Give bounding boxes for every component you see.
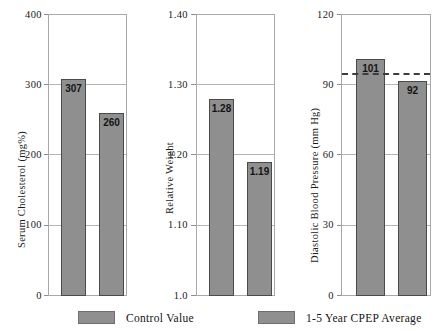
gridline-1-30 xyxy=(197,84,274,85)
y-tick-label-0: 0 xyxy=(296,290,334,301)
y-axis-title-diastolic-blood-pressure: Diastolic Blood Pressure (mm Hg) xyxy=(309,108,320,263)
bar-label-cpep-average: 260 xyxy=(99,117,124,128)
legend-item-control-value: Control Value xyxy=(78,311,194,324)
bar-cpep-average xyxy=(247,162,272,296)
plot-area-relative-weight: 1.28 1.19 xyxy=(196,14,275,296)
reference-line-95 xyxy=(342,73,430,75)
y-tick-label-1-0: 1.0 xyxy=(148,290,188,301)
legend-label-cpep-average: 1-5 Year CPEP Average xyxy=(306,312,422,324)
legend-label-control-value: Control Value xyxy=(126,312,194,324)
y-tick-label-60: 60 xyxy=(296,149,334,160)
bar-control-value xyxy=(209,99,234,296)
bar-label-cpep-average: 1.19 xyxy=(247,166,272,177)
legend-swatch-control-value xyxy=(78,311,115,324)
y-tick-label-30: 30 xyxy=(296,219,334,230)
bar-label-control-value: 1.28 xyxy=(209,103,234,114)
bar-cpep-average xyxy=(99,113,124,296)
y-tick-label-90: 90 xyxy=(296,79,334,90)
bar-control-value xyxy=(356,59,385,296)
plot-area-diastolic-blood-pressure: 101 92 xyxy=(341,14,431,296)
bar-control-value xyxy=(61,79,86,296)
y-tick-label-1-20: 1.20 xyxy=(148,149,188,160)
bar-label-cpep-average: 92 xyxy=(398,85,427,96)
y-tick-label-120: 120 xyxy=(296,9,334,20)
y-tick-label-1-30: 1.30 xyxy=(148,79,188,90)
y-tick-label-100: 100 xyxy=(8,219,42,230)
y-tick-label-1-10: 1.10 xyxy=(148,219,188,230)
legend-swatch-cpep-average xyxy=(258,311,295,324)
y-tick-label-1-40: 1.40 xyxy=(148,9,188,20)
y-tick-label-400: 400 xyxy=(8,9,42,20)
bar-label-control-value: 307 xyxy=(61,83,86,94)
y-tick-label-200: 200 xyxy=(8,149,42,160)
legend-item-cpep-average: 1-5 Year CPEP Average xyxy=(258,311,422,324)
bar-cpep-average xyxy=(398,81,427,296)
plot-area-serum-cholesterol: 307 260 xyxy=(48,14,127,296)
y-tick-label-0: 0 xyxy=(8,290,42,301)
figure-bar-chart-panels: Serum Cholesterol (mg%) 400 300 200 100 … xyxy=(0,0,435,331)
y-tick-label-300: 300 xyxy=(8,79,42,90)
